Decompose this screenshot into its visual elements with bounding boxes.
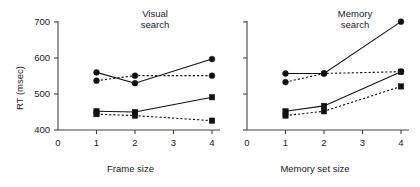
data-point-circle-solid bbox=[398, 19, 404, 25]
chart-panel-visual-search: Visual search RT (msec) Frame size 40050… bbox=[0, 0, 210, 187]
y-tick-label: 500 bbox=[16, 88, 50, 99]
chart-panel-memory-search: Memory search Memory set size 01234 bbox=[210, 0, 420, 187]
x-tick-label: 3 bbox=[164, 137, 184, 148]
series-line-square-dashed bbox=[286, 86, 402, 115]
x-tick-label: 4 bbox=[391, 137, 411, 148]
data-point-circle-solid bbox=[94, 70, 100, 76]
data-point-circle-dashed bbox=[321, 71, 327, 77]
x-tick-label: 2 bbox=[125, 137, 145, 148]
data-point-square-dashed bbox=[132, 113, 137, 118]
data-point-circle-dashed bbox=[132, 73, 138, 79]
x-tick-label: 2 bbox=[314, 137, 334, 148]
data-point-square-solid bbox=[321, 103, 326, 108]
series-line-square-solid bbox=[97, 97, 213, 112]
figure-root: Visual search RT (msec) Frame size 40050… bbox=[0, 0, 420, 187]
data-point-square-dashed bbox=[321, 109, 326, 114]
y-tick-label: 600 bbox=[16, 52, 50, 63]
series-line-square-dashed bbox=[97, 114, 213, 120]
y-tick-label: 400 bbox=[16, 124, 50, 135]
series-line-circle-solid bbox=[97, 59, 213, 83]
x-tick-label: 3 bbox=[353, 137, 373, 148]
chart-canvas-right bbox=[210, 0, 420, 187]
series-line-circle-solid bbox=[286, 22, 402, 74]
series-line-circle-dashed bbox=[97, 76, 213, 81]
x-tick-label: 0 bbox=[237, 137, 257, 148]
data-point-square-solid bbox=[398, 69, 403, 74]
y-tick-label: 700 bbox=[16, 16, 50, 27]
data-point-square-dashed bbox=[94, 111, 99, 116]
x-tick-label: 0 bbox=[48, 137, 68, 148]
data-point-square-dashed bbox=[283, 113, 288, 118]
data-point-circle-dashed bbox=[283, 79, 289, 85]
x-tick-label: 1 bbox=[276, 137, 296, 148]
data-point-square-dashed bbox=[398, 84, 403, 89]
data-point-circle-dashed bbox=[94, 78, 100, 84]
data-point-circle-solid bbox=[132, 80, 138, 86]
x-tick-label: 1 bbox=[87, 137, 107, 148]
data-point-circle-solid bbox=[283, 71, 289, 77]
